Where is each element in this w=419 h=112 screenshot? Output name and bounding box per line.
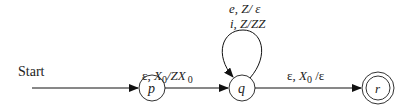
start-label: Start: [18, 64, 45, 79]
pda-diagram: Start p ε, X0/ZX0 q e, Z/ ε i, Z/ZZ ε, X…: [0, 0, 419, 112]
transition-q-r-label: ε, X0 /ε: [287, 68, 325, 85]
transition-q-q-label-1: e, Z/ ε: [229, 1, 261, 16]
state-p-label: p: [147, 81, 155, 96]
state-q: q: [229, 75, 255, 101]
transition-p-q-label: ε, X0/ZX0: [142, 68, 193, 85]
transition-q-q-label-2: i, Z/ZZ: [230, 16, 266, 31]
transition-q-q-loop: [222, 30, 261, 78]
state-q-label: q: [238, 81, 245, 96]
state-r-accepting: r: [362, 72, 394, 104]
